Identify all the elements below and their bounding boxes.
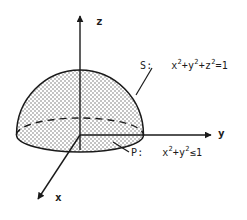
surface-leader-line [136, 68, 152, 95]
x-axis-label: x [55, 192, 62, 203]
surface-name-prefix: S: [140, 60, 152, 71]
diagram-canvas [0, 0, 247, 220]
surface-equation-parts: x2+y2+z2=1 [159, 60, 228, 71]
y-axis-label: y [218, 128, 225, 139]
region-equation-label: P: x2+y2≤1 [131, 148, 202, 158]
region-equation-parts: x2+y2≤1 [150, 147, 202, 158]
z-axis-label: z [96, 16, 103, 27]
surface-equation-label: S: x2+y2+z2=1 [140, 61, 228, 71]
region-name-prefix: P: [131, 147, 143, 158]
hemisphere-diagram: z y x S: x2+y2+z2=1 P: x2+y2≤1 [0, 0, 247, 220]
